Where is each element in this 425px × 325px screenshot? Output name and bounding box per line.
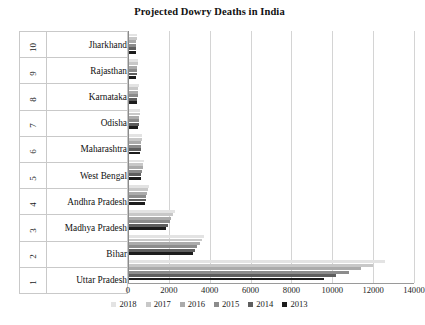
category-label: Uttar Pradesh xyxy=(47,267,128,293)
legend-item[interactable]: 2013 xyxy=(282,299,307,309)
category-row: 2Bihar xyxy=(20,241,128,267)
rank-cell: 10 xyxy=(20,32,47,58)
bar-group xyxy=(128,233,414,258)
bar xyxy=(128,76,136,79)
bar xyxy=(128,138,142,141)
rank-label: 5 xyxy=(29,176,38,181)
category-label: Rajasthan xyxy=(47,58,128,84)
legend-item[interactable]: 2017 xyxy=(146,299,171,309)
category-label-rows: 10Jharkhand9Rajasthan8Karnataka7Odisha6M… xyxy=(20,32,128,294)
bar xyxy=(128,126,138,129)
legend-item[interactable]: 2015 xyxy=(214,299,239,309)
x-tick-label: 10000 xyxy=(322,285,343,295)
bar xyxy=(128,192,147,195)
category-label: Madhya Pradesh xyxy=(47,215,128,241)
legend-swatch xyxy=(111,302,116,307)
bar xyxy=(128,123,139,126)
x-tick-label: 8000 xyxy=(283,285,300,295)
rank-cell: 6 xyxy=(20,136,47,162)
category-label: Karnataka xyxy=(47,84,128,110)
legend-label: 2014 xyxy=(256,299,273,309)
bar xyxy=(128,91,138,94)
bar xyxy=(128,101,137,104)
plot-area xyxy=(128,31,414,283)
bar-group xyxy=(128,182,414,207)
x-tick-label: 6000 xyxy=(242,285,259,295)
rank-label: 3 xyxy=(29,228,38,233)
chart-legend: 201820172016201520142013 xyxy=(0,299,419,309)
bar xyxy=(128,213,173,216)
bar xyxy=(128,116,139,119)
gridline xyxy=(414,31,415,283)
bar xyxy=(128,252,193,255)
legend-item[interactable]: 2016 xyxy=(180,299,205,309)
bar xyxy=(128,163,143,166)
bar-group xyxy=(128,132,414,157)
bar xyxy=(128,113,140,116)
bar xyxy=(128,37,137,40)
bar xyxy=(128,227,166,230)
bar xyxy=(128,188,148,191)
bar xyxy=(128,148,141,151)
bar xyxy=(128,141,141,144)
bar xyxy=(128,152,140,155)
category-row: 4Andhra Pradesh xyxy=(20,189,128,215)
bar-group xyxy=(128,207,414,232)
category-label: Jharkhand xyxy=(47,32,128,58)
rank-label: 6 xyxy=(29,150,38,155)
legend-swatch xyxy=(214,302,219,307)
legend-label: 2016 xyxy=(188,299,205,309)
rank-cell: 8 xyxy=(20,84,47,110)
bar xyxy=(128,274,336,277)
bar xyxy=(128,260,385,263)
legend-label: 2015 xyxy=(222,299,239,309)
rank-cell: 3 xyxy=(20,215,47,241)
category-row: 9Rajasthan xyxy=(20,58,128,84)
chart-title: Projected Dowry Deaths in India xyxy=(0,6,419,17)
rank-cell: 4 xyxy=(20,189,47,215)
legend-item[interactable]: 2014 xyxy=(248,299,273,309)
bar-group xyxy=(128,31,414,56)
x-axis-line xyxy=(128,283,414,284)
legend-label: 2013 xyxy=(290,299,307,309)
bar xyxy=(128,109,140,112)
rank-label: 4 xyxy=(29,202,38,207)
legend-label: 2017 xyxy=(154,299,171,309)
category-row: 3Madhya Pradesh xyxy=(20,215,128,241)
category-row: 7Odisha xyxy=(20,110,128,136)
y-axis-line xyxy=(128,31,129,283)
bar xyxy=(128,210,175,213)
bar xyxy=(128,87,138,90)
bar xyxy=(128,59,138,62)
rank-cell: 9 xyxy=(20,58,47,84)
rank-cell: 5 xyxy=(20,162,47,188)
x-tick-label: 14000 xyxy=(403,285,424,295)
bar xyxy=(128,166,143,169)
category-label-table: 10Jharkhand9Rajasthan8Karnataka7Odisha6M… xyxy=(19,31,128,294)
bar xyxy=(128,242,200,245)
rank-cell: 2 xyxy=(20,241,47,267)
bar xyxy=(128,249,195,252)
bar-group xyxy=(128,81,414,106)
rank-label: 1 xyxy=(29,281,38,286)
bar xyxy=(128,160,144,163)
bar xyxy=(128,34,137,37)
bar xyxy=(128,224,168,227)
bar xyxy=(128,73,137,76)
bar xyxy=(128,278,324,281)
rank-label: 10 xyxy=(29,43,38,52)
x-tick-label: 2000 xyxy=(160,285,177,295)
x-tick-label: 12000 xyxy=(362,285,383,295)
rank-cell: 7 xyxy=(20,110,47,136)
bar xyxy=(128,40,136,43)
category-row: 8Karnataka xyxy=(20,84,128,110)
category-row: 5West Bengal xyxy=(20,162,128,188)
bar xyxy=(128,98,137,101)
legend-label: 2018 xyxy=(119,299,136,309)
bar xyxy=(128,134,142,137)
category-label: Odisha xyxy=(47,110,128,136)
category-label: Bihar xyxy=(47,241,128,267)
bar-group xyxy=(128,157,414,182)
legend-item[interactable]: 2018 xyxy=(111,299,136,309)
